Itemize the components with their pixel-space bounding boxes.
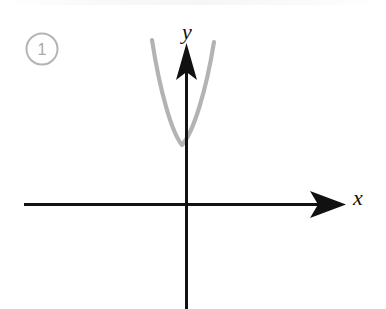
figure-canvas: 1 x y: [0, 0, 386, 309]
figure-number-badge: 1: [27, 34, 58, 65]
y-axis-label: y: [180, 19, 192, 44]
coordinate-plane-diagram: 1 x y: [0, 0, 386, 309]
x-axis-label: x: [352, 185, 363, 210]
badge-number-label: 1: [38, 41, 47, 58]
